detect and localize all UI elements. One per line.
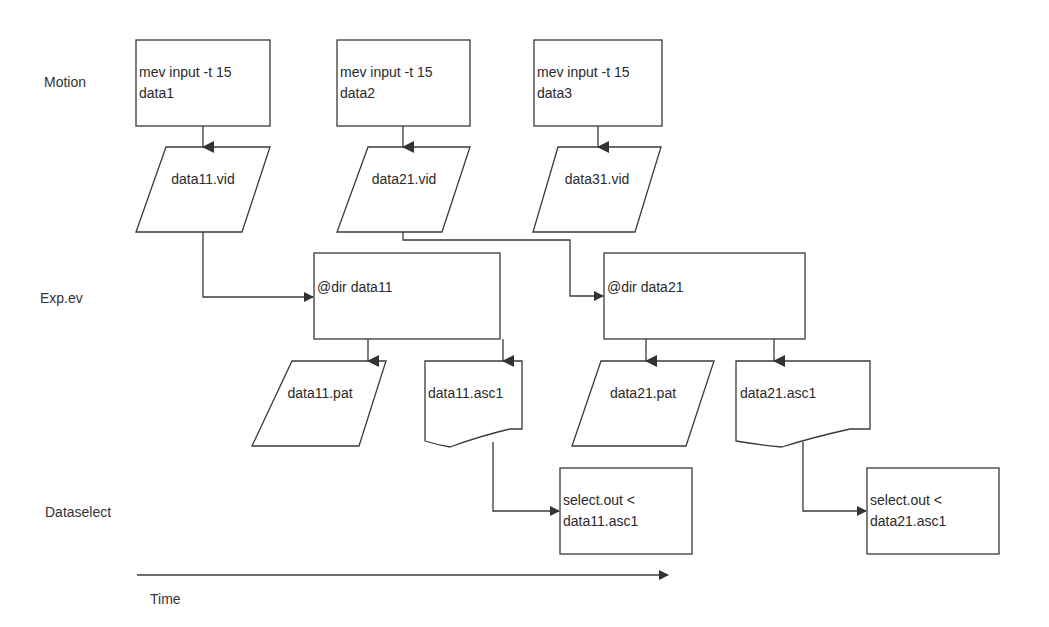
vid-file-1-label: data11.vid (153, 169, 253, 190)
exp-node-1-label: @dir data11 (317, 277, 392, 298)
asc-file-2-label: data21.asc1 (740, 383, 816, 404)
arrow-vid1-exp1 (203, 232, 313, 297)
vid-file-2-label: data21.vid (354, 169, 454, 190)
motion-node-2-command: mev input -t 15 (340, 62, 433, 83)
lane-label-motion: Motion (44, 74, 86, 90)
select-node-2-input: data21.asc1 (870, 511, 946, 532)
pat-file-1-label: data11.pat (270, 383, 370, 404)
vid-file-3-label: data31.vid (547, 169, 647, 190)
motion-node-3-dataset: data3 (537, 83, 630, 104)
pat-file-2-label: data21.pat (593, 383, 693, 404)
motion-node-1-dataset: data1 (139, 83, 232, 104)
asc-file-2 (736, 361, 870, 447)
motion-node-1-command: mev input -t 15 (139, 62, 232, 83)
motion-node-2-dataset: data2 (340, 83, 433, 104)
select-node-2-command: select.out < (870, 490, 946, 511)
select-node-2-text: select.out < data21.asc1 (870, 490, 946, 532)
time-axis-label: Time (150, 591, 181, 607)
motion-node-3-text: mev input -t 15 data3 (537, 62, 630, 104)
select-node-1-input: data11.asc1 (563, 511, 638, 532)
asc-file-1 (425, 361, 522, 447)
lane-label-dataselect: Dataselect (45, 504, 111, 520)
lane-label-exp-ev: Exp.ev (40, 290, 83, 306)
exp-node-2-label: @dir data21 (607, 277, 683, 298)
motion-node-1-text: mev input -t 15 data1 (139, 62, 232, 104)
arrow-asc1-select1 (493, 442, 559, 511)
asc-file-1-label: data11.asc1 (428, 383, 503, 404)
motion-node-2-text: mev input -t 15 data2 (340, 62, 433, 104)
motion-node-3-command: mev input -t 15 (537, 62, 630, 83)
arrow-asc2-select2 (803, 442, 866, 511)
select-node-1-command: select.out < (563, 490, 638, 511)
select-node-1-text: select.out < data11.asc1 (563, 490, 638, 532)
